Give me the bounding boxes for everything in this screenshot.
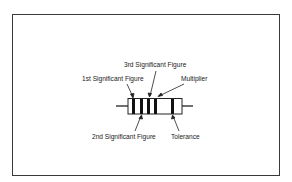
- pointer-3rd: [150, 71, 156, 96]
- band-multiplier: [154, 99, 157, 114]
- label-2nd-significant: 2nd Significant Figure: [92, 133, 156, 141]
- band-3rd-significant: [147, 99, 150, 114]
- band-tolerance: [171, 99, 174, 114]
- pointer-multiplier: [159, 84, 184, 96]
- band-2nd-significant: [140, 99, 143, 114]
- resistor-diagram: 3rd Significant Figure 1st Significant F…: [0, 0, 292, 182]
- label-multiplier: Multiplier: [181, 75, 208, 83]
- label-tolerance: Tolerance: [171, 133, 200, 140]
- label-1st-significant: 1st Significant Figure: [82, 75, 144, 83]
- label-3rd-significant: 3rd Significant Figure: [124, 61, 187, 69]
- band-1st-significant: [132, 99, 135, 114]
